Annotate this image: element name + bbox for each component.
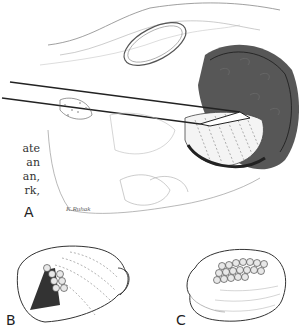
caption-fragment: ate an an, rk, bbox=[0, 142, 40, 198]
caption-line: ate bbox=[0, 142, 40, 156]
panel-label-a: A bbox=[24, 204, 34, 220]
caption-line: an bbox=[0, 156, 40, 170]
artist-signature: K.Ruhak bbox=[66, 205, 90, 213]
panel-label-c: C bbox=[176, 312, 186, 328]
panel-a-illustration bbox=[0, 0, 306, 240]
caption-line: an, bbox=[0, 170, 40, 184]
caption-line: rk, bbox=[0, 184, 40, 198]
panel-label-b: B bbox=[6, 312, 16, 328]
